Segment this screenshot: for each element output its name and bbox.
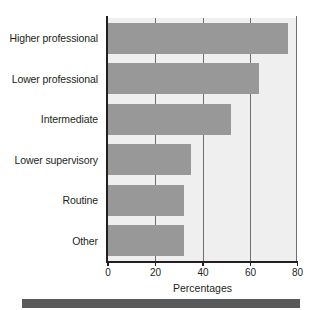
bar-chart-figure: Higher professional Lower professional I… xyxy=(0,0,316,310)
plot-right-border xyxy=(296,16,297,263)
category-label-lower-professional: Lower professional xyxy=(0,59,103,100)
bar-slot-lower-professional xyxy=(108,59,297,100)
bar-intermediate xyxy=(108,104,231,135)
x-tick-label-40: 40 xyxy=(197,267,208,278)
bar-slot-lower-supervisory xyxy=(108,140,297,181)
bar-slot-other xyxy=(108,221,297,262)
x-axis-title: Percentages xyxy=(108,282,297,294)
bottom-banner xyxy=(22,299,300,308)
bar-slot-routine xyxy=(108,180,297,221)
category-label-lower-supervisory: Lower supervisory xyxy=(0,140,103,181)
x-tick-mark-80 xyxy=(297,261,299,266)
x-tick-label-80: 80 xyxy=(292,267,303,278)
category-label-other: Other xyxy=(0,221,103,262)
plot-area xyxy=(108,18,297,261)
x-tick-mark-20 xyxy=(155,261,157,266)
x-tick-label-60: 60 xyxy=(245,267,256,278)
category-label-intermediate: Intermediate xyxy=(0,99,103,140)
x-tick-mark-0 xyxy=(107,261,109,266)
category-label-routine: Routine xyxy=(0,180,103,221)
bar-lower-supervisory xyxy=(108,144,191,175)
bar-other xyxy=(108,225,184,256)
bar-routine xyxy=(108,185,184,216)
x-tick-label-0: 0 xyxy=(105,267,111,278)
bar-lower-professional xyxy=(108,63,259,94)
category-axis: Higher professional Lower professional I… xyxy=(0,18,103,261)
category-label-higher-professional: Higher professional xyxy=(0,18,103,59)
x-tick-label-20: 20 xyxy=(150,267,161,278)
x-tick-mark-60 xyxy=(250,261,252,266)
bar-series xyxy=(108,18,297,261)
x-tick-mark-40 xyxy=(202,261,204,266)
bar-slot-higher-professional xyxy=(108,18,297,59)
bar-higher-professional xyxy=(108,23,288,54)
bar-slot-intermediate xyxy=(108,99,297,140)
